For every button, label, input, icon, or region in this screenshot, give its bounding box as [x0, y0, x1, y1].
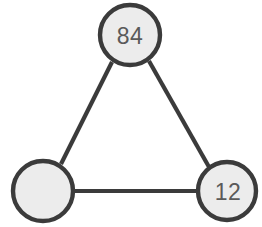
node-circle-bottom-left[interactable] — [13, 161, 73, 221]
node-bottom-left[interactable] — [13, 161, 73, 221]
graph-canvas: 84 12 — [0, 0, 262, 227]
edge-top-to-bottom-left — [61, 62, 112, 164]
node-label-bottom-right: 12 — [215, 179, 241, 205]
edge-group — [61, 61, 209, 191]
node-top[interactable]: 84 — [100, 5, 160, 65]
edge-top-to-bottom-right — [149, 61, 209, 167]
graph-diagram: 84 12 — [0, 0, 262, 227]
node-label-top: 84 — [117, 23, 143, 49]
node-bottom-right[interactable]: 12 — [198, 162, 256, 220]
